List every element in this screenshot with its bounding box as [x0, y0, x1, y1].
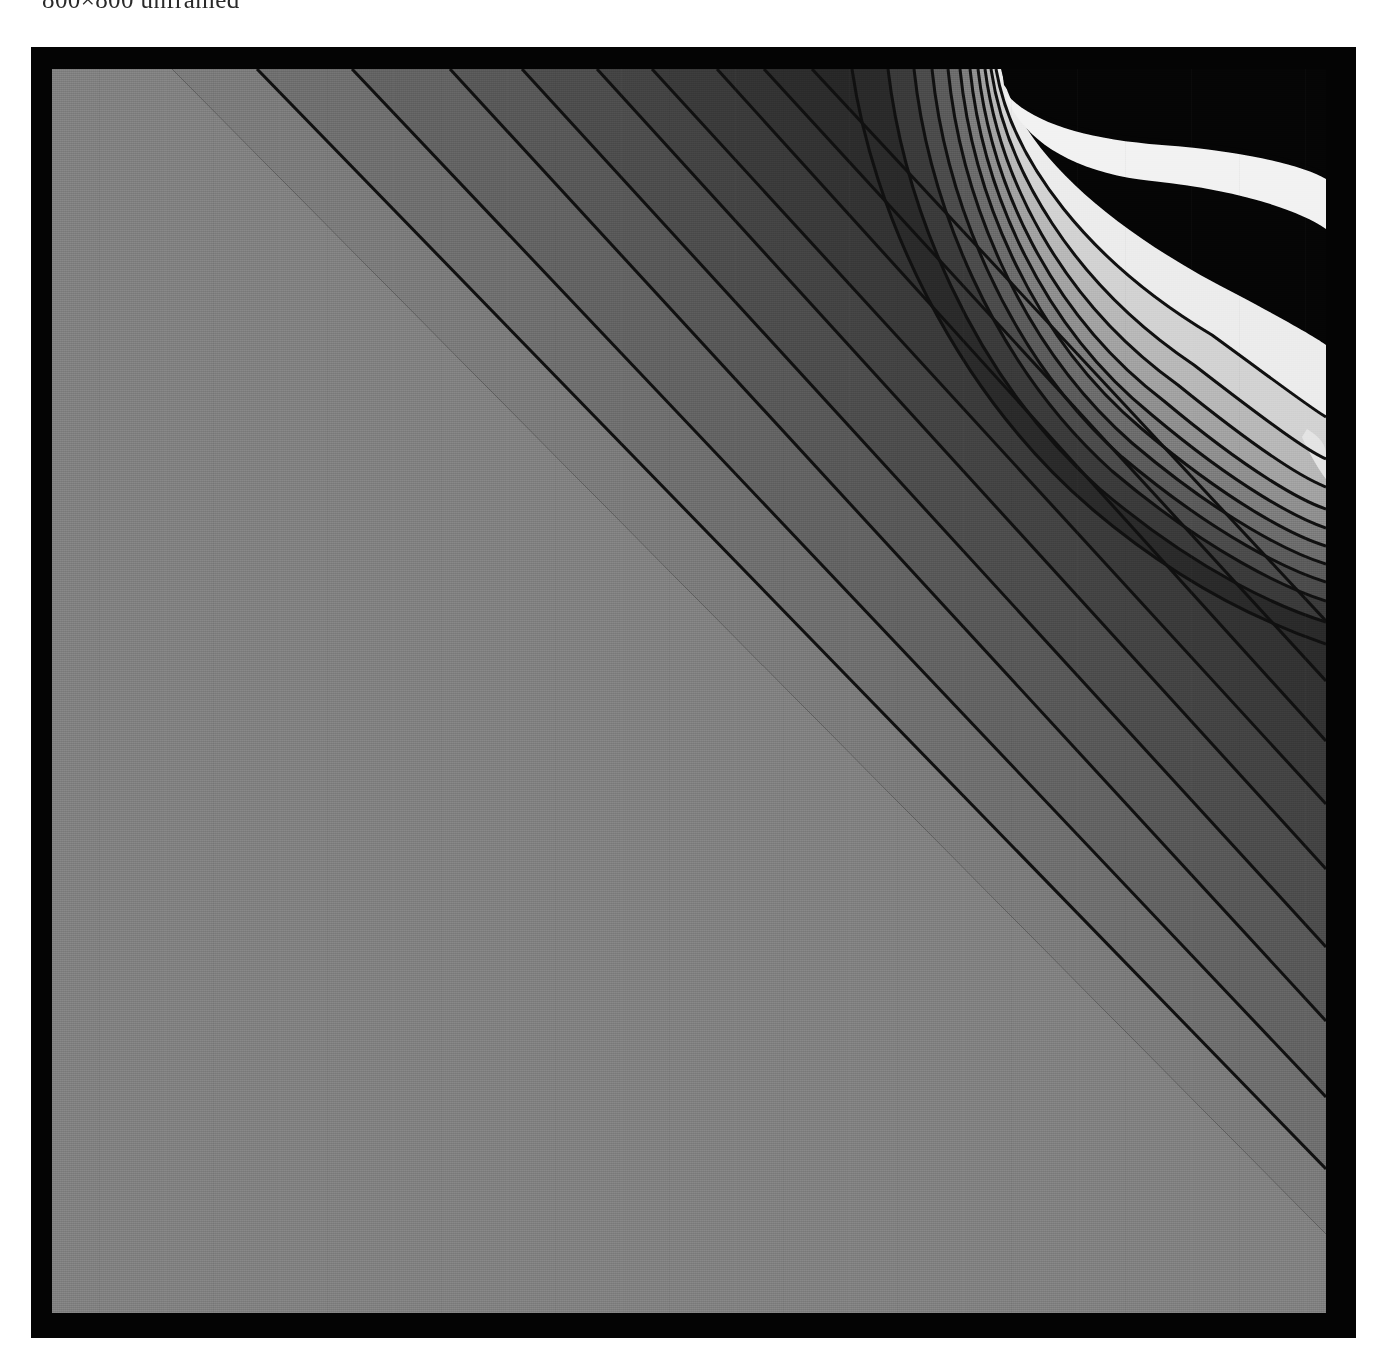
- page-canvas: 800×800 unframed: [0, 0, 1388, 1370]
- contour-plot-svg: [52, 69, 1326, 1313]
- contour-bands: [52, 69, 1326, 1313]
- plot-area: [52, 69, 1326, 1313]
- figure-caption: 800×800 unframed: [42, 0, 240, 12]
